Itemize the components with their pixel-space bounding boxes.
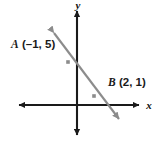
x-axis-label: x <box>145 99 152 111</box>
point-marker-a <box>66 60 70 64</box>
point-label-b: B (2, 1) <box>107 76 146 88</box>
coordinate-plane-figure: x y A (–1, 5) B (2, 1) <box>0 0 164 141</box>
axes-group <box>19 11 139 135</box>
point-a-coords: (–1, 5) <box>22 38 55 50</box>
coordinate-plane-svg: x y A (–1, 5) B (2, 1) <box>0 0 164 141</box>
y-axis-label: y <box>74 0 81 11</box>
point-marker-b <box>92 94 96 98</box>
point-b-coords: (2, 1) <box>119 76 146 88</box>
point-b-letter: B <box>107 76 116 88</box>
point-label-a: A (–1, 5) <box>10 38 55 50</box>
point-a-letter: A <box>10 38 19 50</box>
axis-labels-group: x y <box>74 0 153 111</box>
